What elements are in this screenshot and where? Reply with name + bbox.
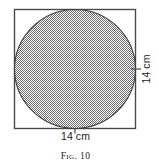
right-side-label-wrapper: 14 cm — [133, 9, 159, 129]
figure-10-container: 14 cm 14 cm Fig. 10 — [0, 0, 159, 168]
shaded-star-region — [15, 10, 136, 129]
bottom-side-length-label: 14 cm — [0, 130, 151, 142]
figure-caption: Fig. 10 — [0, 150, 151, 162]
right-side-length-label: 14 cm — [140, 54, 152, 83]
